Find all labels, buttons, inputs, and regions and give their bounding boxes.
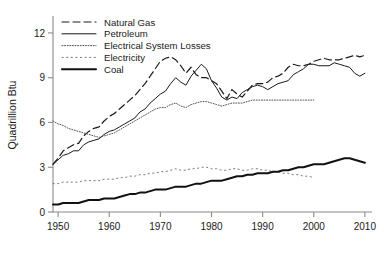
series-line-coal [53,158,365,204]
x-tick-label: 1990 [252,221,275,232]
x-tick-label: 2000 [303,221,326,232]
series-line-electricity [53,167,314,183]
series-line-petroleum [53,63,365,164]
y-tick-label: 3 [39,162,45,173]
y-axis-title: Quadrillion Btu [6,80,18,149]
legend-label-electricity: Electricity [104,52,145,63]
series-line-electrical-system-losses [53,100,314,137]
y-tick-label: 12 [34,28,46,39]
series-line-natural-gas [53,55,365,164]
chart-figure: 0369121950196019701980199020002010Quadri… [0,0,389,254]
legend-label-natural-gas: Natural Gas [104,17,155,28]
x-tick-label: 1950 [47,221,70,232]
y-tick-label: 6 [39,117,45,128]
x-tick-label: 1970 [149,221,172,232]
line-chart: 0369121950196019701980199020002010Quadri… [0,0,389,254]
legend-label-coal: Coal [104,64,124,75]
x-tick-label: 1980 [200,221,223,232]
y-tick-label: 0 [39,207,45,218]
x-tick-label: 2010 [354,221,377,232]
y-tick-label: 9 [39,72,45,83]
x-tick-label: 1960 [98,221,121,232]
legend-label-petroleum: Petroleum [104,28,148,39]
legend-label-electrical-system-losses: Electrical System Losses [104,40,211,51]
